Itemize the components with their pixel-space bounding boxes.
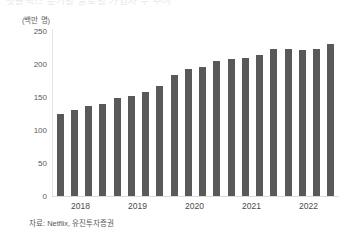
y-tick-label: 250 [34, 27, 47, 36]
bar [313, 49, 320, 196]
bar [242, 58, 249, 196]
bar [270, 49, 277, 196]
plot-area: 050100150200250 [52, 31, 337, 196]
chart-figure: 넷플릭스 분기별 글로벌 가입자 수 추이 (백만 명) 05010015020… [0, 0, 343, 239]
bar [85, 106, 92, 196]
x-tick-label: 2022 [299, 201, 318, 211]
clipped-title-strip: 넷플릭스 분기별 글로벌 가입자 수 추이 [0, 0, 343, 9]
bar [199, 67, 206, 196]
bar [156, 86, 163, 196]
bar [299, 50, 306, 196]
bar [128, 96, 135, 196]
bar [57, 114, 64, 197]
x-axis-line [52, 196, 339, 197]
bar [142, 92, 149, 196]
y-tick-label: 200 [34, 60, 47, 69]
x-tick-label: 2020 [185, 201, 204, 211]
bar [185, 69, 192, 196]
bar [285, 49, 292, 196]
x-tick-label: 2021 [242, 201, 261, 211]
bar [171, 75, 178, 196]
x-tick-label: 2019 [128, 201, 147, 211]
chart-title: 넷플릭스 분기별 글로벌 가입자 수 추이 [6, 0, 172, 7]
y-tick-label: 50 [38, 159, 47, 168]
bar [114, 98, 121, 196]
bar [71, 110, 78, 196]
y-axis-unit-label: (백만 명) [22, 14, 50, 25]
bar [327, 44, 334, 196]
source-note: 자료: Netflix, 유진투자증권 [29, 217, 114, 228]
y-tick-label: 0 [43, 192, 47, 201]
y-tick-label: 100 [34, 126, 47, 135]
bar [256, 55, 263, 196]
bar [228, 59, 235, 196]
y-tick-label: 150 [34, 93, 47, 102]
x-tick-label: 2018 [71, 201, 90, 211]
bar [99, 104, 106, 196]
bar [213, 61, 220, 196]
